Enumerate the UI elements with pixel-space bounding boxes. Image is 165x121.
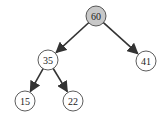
node-label: 41: [141, 56, 151, 67]
node-22: 22: [63, 91, 83, 111]
nodes-group: 60 35 41 15 22: [15, 6, 156, 111]
edge-arrow: [53, 69, 67, 92]
edge-arrow: [103, 23, 137, 54]
node-label: 22: [68, 96, 78, 107]
tree-diagram: 60 35 41 15 22: [0, 0, 165, 121]
node-15: 15: [15, 91, 35, 111]
node-41: 41: [136, 51, 156, 71]
node-label: 35: [43, 55, 53, 66]
node-label: 15: [20, 96, 30, 107]
node-35: 35: [38, 50, 58, 70]
node-label: 60: [91, 11, 101, 22]
node-60: 60: [86, 6, 106, 26]
edge-arrow: [56, 23, 89, 53]
edge-arrow: [30, 69, 43, 92]
